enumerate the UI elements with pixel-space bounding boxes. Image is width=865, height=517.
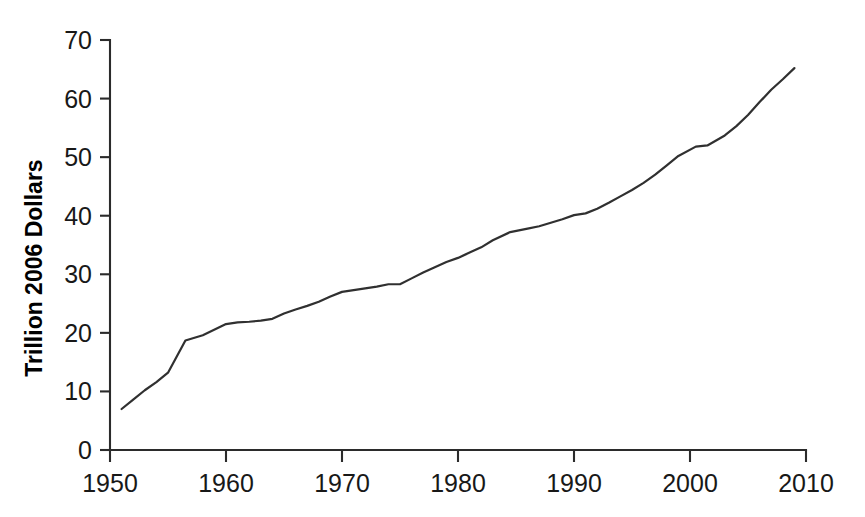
y-tick-label: 30 (64, 260, 92, 288)
x-axis-ticks: 1950196019701980199020002010 (82, 450, 834, 497)
line-chart: Trillion 2006 Dollars 010203040506070 19… (0, 0, 865, 517)
x-tick-label: 1950 (82, 469, 138, 497)
y-axis-ticks: 010203040506070 (64, 26, 110, 464)
x-tick-label: 1970 (314, 469, 370, 497)
y-tick-label: 40 (64, 202, 92, 230)
x-tick-label: 2010 (778, 469, 834, 497)
x-tick-label: 1960 (198, 469, 254, 497)
y-tick-label: 60 (64, 85, 92, 113)
x-tick-label: 2000 (662, 469, 718, 497)
series-line (122, 68, 795, 409)
y-tick-label: 0 (78, 436, 92, 464)
y-tick-label: 20 (64, 319, 92, 347)
y-tick-label: 10 (64, 377, 92, 405)
x-tick-label: 1980 (430, 469, 486, 497)
y-tick-label: 70 (64, 26, 92, 54)
y-tick-label: 50 (64, 143, 92, 171)
y-axis-title: Trillion 2006 Dollars (21, 159, 47, 376)
chart-container: Trillion 2006 Dollars 010203040506070 19… (0, 0, 865, 517)
series-layer (122, 68, 795, 409)
x-tick-label: 1990 (546, 469, 602, 497)
